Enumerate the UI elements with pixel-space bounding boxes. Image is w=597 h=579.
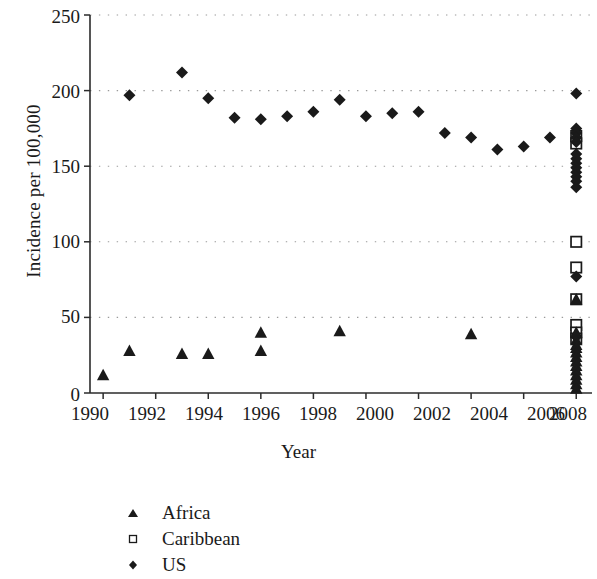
legend-label: Africa (162, 502, 211, 524)
legend-item-us: US (118, 552, 240, 578)
square-open-icon (118, 532, 148, 546)
legend-item-africa: Africa (118, 500, 240, 526)
axis-lines (90, 15, 592, 393)
diamond-filled-icon (118, 558, 148, 572)
legend-item-caribbean: Caribbean (118, 526, 240, 552)
gridlines (90, 15, 592, 317)
scatter-chart: Incidence per 100,000 1990 1992 1994 199… (0, 0, 597, 579)
triangle-up-icon (118, 506, 148, 520)
plot-area (0, 0, 597, 460)
x-axis-label: Year (0, 441, 597, 463)
axis-ticks (84, 15, 576, 399)
chart-legend: Africa Caribbean US (118, 500, 240, 578)
data-points (97, 66, 582, 393)
legend-label: Caribbean (162, 528, 240, 550)
legend-label: US (162, 554, 186, 576)
